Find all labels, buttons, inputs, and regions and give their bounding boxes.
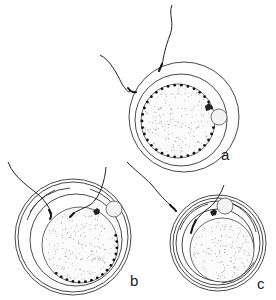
egg-b-cytoplasm (42, 207, 118, 283)
egg-a-polar-body (211, 109, 227, 125)
egg-b-polar-body (106, 201, 122, 217)
egg-a-sperm-top-tail (162, 5, 172, 65)
label-a: a (221, 146, 230, 163)
egg-a: a (100, 5, 239, 172)
label-b: b (130, 272, 138, 289)
egg-c-polar-body (217, 198, 233, 214)
egg-a-sperm-top-head (159, 64, 162, 71)
egg-b: b (8, 162, 138, 295)
egg-b-fertilization-envelope-arc-1 (30, 188, 70, 212)
egg-a-cytoplasm (141, 84, 215, 158)
egg-c: c (127, 162, 266, 292)
egg-a-sperm-left-tail (100, 55, 130, 92)
fertilization-diagram: a b c (0, 0, 276, 300)
label-c: c (257, 275, 265, 292)
egg-c-sperm-left-head (170, 205, 176, 211)
egg-c-sperm-penetrating-head (191, 220, 196, 233)
